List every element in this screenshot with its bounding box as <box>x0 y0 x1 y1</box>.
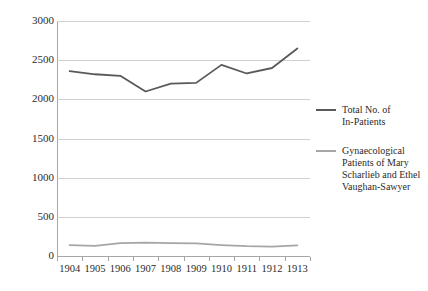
series-canvas <box>57 21 310 256</box>
x-tick-label-1907: 1907 <box>133 262 158 278</box>
legend-label-line-1: Gynaecological <box>342 145 405 156</box>
legend-label-line-4: Vaughan-Sawyer <box>342 181 410 192</box>
series-line-gynaecological-patients <box>70 243 298 247</box>
x-tick-label-1909: 1909 <box>183 262 208 278</box>
x-tick-mark <box>234 257 235 261</box>
x-tick-mark <box>259 257 260 261</box>
line-chart: 050010001500200025003000 190419051906190… <box>0 0 428 291</box>
legend-swatch-gynaecological-patients <box>316 150 336 152</box>
x-tick-label-1910: 1910 <box>209 262 234 278</box>
x-tick-mark <box>133 257 134 261</box>
legend-label-line-2: In-Patients <box>342 116 385 127</box>
x-tick-mark <box>57 257 58 261</box>
x-tick-label-1904: 1904 <box>57 262 82 278</box>
y-tick-label-500: 500 <box>8 211 54 222</box>
x-tick-label-1905: 1905 <box>82 262 107 278</box>
y-tick-label-1500: 1500 <box>8 133 54 144</box>
x-tick-label-1913: 1913 <box>285 262 310 278</box>
legend-label-line-2: Patients of Mary <box>342 157 409 168</box>
series-line-total-in-patients <box>70 48 298 91</box>
plot-area <box>57 21 310 256</box>
x-tick-mark <box>209 257 210 261</box>
y-tick-label-1000: 1000 <box>8 172 54 183</box>
y-tick-label-0: 0 <box>8 250 54 261</box>
x-tick-label-1906: 1906 <box>108 262 133 278</box>
legend-swatch-total-in-patients <box>316 109 336 111</box>
legend-entry-gynaecological-patients: Gynaecological Patients of Mary Scharlie… <box>316 145 428 193</box>
x-axis-tick-labels: 1904190519061907190819091910191119121913 <box>57 262 310 278</box>
x-tick-mark <box>108 257 109 261</box>
x-tick-mark <box>158 257 159 261</box>
x-tick-mark <box>310 257 311 261</box>
legend-label-line-3: Scharlieb and Ethel <box>342 169 420 180</box>
legend-label-total-in-patients: Total No. of In-Patients <box>342 104 390 128</box>
x-tick-mark <box>184 257 185 261</box>
legend-label-gynaecological-patients: Gynaecological Patients of Mary Scharlie… <box>342 145 420 193</box>
x-tick-mark <box>285 257 286 261</box>
chart-legend: Total No. of In-Patients Gynaecological … <box>316 104 428 210</box>
y-tick-label-2000: 2000 <box>8 93 54 104</box>
x-tick-mark <box>82 257 83 261</box>
legend-label-line-1: Total No. of <box>342 104 390 115</box>
legend-entry-total-in-patients: Total No. of In-Patients <box>316 104 428 128</box>
x-axis-tick-marks <box>57 257 310 261</box>
y-tick-label-2500: 2500 <box>8 54 54 65</box>
x-tick-label-1911: 1911 <box>234 262 259 278</box>
x-tick-label-1912: 1912 <box>259 262 284 278</box>
x-tick-label-1908: 1908 <box>158 262 183 278</box>
y-tick-label-3000: 3000 <box>8 15 54 26</box>
